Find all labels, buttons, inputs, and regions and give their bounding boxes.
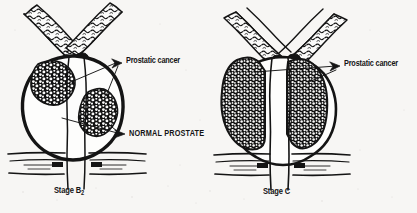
seminal-vesicle-left-c (224, 8, 291, 62)
seminal-vesicle-right (66, 3, 122, 56)
label-prostatic-cancer-right: Prostatic cancer (344, 58, 398, 68)
prostate-staging-illustration (0, 0, 417, 213)
panel-stage-b2 (8, 3, 146, 189)
stage-b2-subscript: 2 (81, 189, 84, 196)
label-stage-b2: Stage B2 (54, 185, 84, 195)
stage-b2-text: Stage B (54, 185, 81, 195)
label-prostatic-cancer-left: Prostatic cancer (126, 55, 180, 65)
figure-canvas: Prostatic cancer NORMAL PROSTATE Stage B… (0, 0, 417, 213)
label-normal-prostate: NORMAL PROSTATE (129, 128, 204, 138)
label-stage-c: Stage C (263, 186, 290, 196)
cancer-mass-left-lobe (221, 57, 265, 149)
panel-stage-c (214, 8, 350, 190)
